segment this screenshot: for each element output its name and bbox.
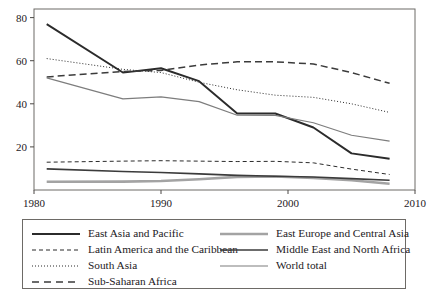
legend-item-label: World total — [276, 259, 327, 272]
legend-item-label: East Europe and Central Asia — [276, 227, 409, 240]
legend-item[interactable]: East Asia and Pacific — [31, 226, 238, 241]
legend-item[interactable]: Sub-Saharan Africa — [31, 274, 238, 289]
legend-item[interactable]: Latin America and the Caribbean — [31, 242, 238, 257]
legend-item-label: Middle East and North Africa — [276, 243, 410, 256]
legend-line-sample — [219, 228, 269, 240]
legend-line-sample — [219, 244, 269, 256]
y-axis-tick-label: 60 — [16, 55, 28, 67]
legend-item-label: Latin America and the Caribbean — [88, 243, 238, 256]
legend-item[interactable]: South Asia — [31, 258, 238, 273]
legend-line-sample — [31, 276, 81, 288]
plot-frame — [34, 9, 415, 190]
legend-line-sample — [31, 244, 81, 256]
legend-item-label: Sub-Saharan Africa — [88, 275, 177, 288]
legend-item[interactable]: Middle East and North Africa — [219, 242, 410, 257]
line-chart-plot: 204060801980199020002010 — [0, 0, 428, 220]
y-axis-tick-label: 20 — [16, 141, 28, 153]
legend-line-sample — [31, 228, 81, 240]
series-line-1 — [47, 161, 390, 175]
series-line-6 — [47, 78, 390, 141]
x-axis-tick-label: 1980 — [23, 197, 46, 209]
legend-line-sample — [219, 260, 269, 272]
legend-column-right: East Europe and Central AsiaMiddle East … — [219, 226, 410, 274]
x-axis-tick-label: 2000 — [277, 197, 300, 209]
legend-line-sample — [31, 260, 81, 272]
legend-item[interactable]: East Europe and Central Asia — [219, 226, 410, 241]
x-axis-tick-label: 1990 — [150, 197, 173, 209]
legend-item-label: East Asia and Pacific — [88, 227, 184, 240]
chart-figure: 204060801980199020002010 East Asia and P… — [0, 0, 428, 304]
legend-column-left: East Asia and PacificLatin America and t… — [31, 226, 238, 290]
series-line-3 — [47, 62, 390, 84]
series-line-0 — [47, 24, 390, 159]
legend-item-label: South Asia — [88, 259, 137, 272]
y-axis-tick-label: 40 — [16, 98, 28, 110]
legend-item[interactable]: World total — [219, 258, 410, 273]
series-line-2 — [47, 59, 390, 113]
x-axis-tick-label: 2010 — [404, 197, 427, 209]
chart-legend: East Asia and PacificLatin America and t… — [22, 219, 406, 289]
y-axis-tick-label: 80 — [16, 12, 28, 24]
